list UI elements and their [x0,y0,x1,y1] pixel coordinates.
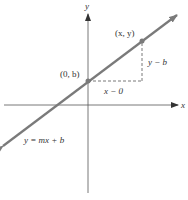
general-point [140,39,145,44]
rise-label: y − b [147,57,168,67]
y-axis-label: y [84,1,89,11]
x-axis-label: x [180,100,185,110]
line-equation-label: y = mx + b [23,135,65,145]
run-label: x − 0 [103,86,124,96]
intercept-point-label: (0, b) [60,69,80,79]
slope-intercept-diagram: x y (0, b) (x, y) x − 0 y − b y = mx + b [0,0,188,200]
general-point-label: (x, y) [115,28,135,38]
intercept-point [86,79,91,84]
